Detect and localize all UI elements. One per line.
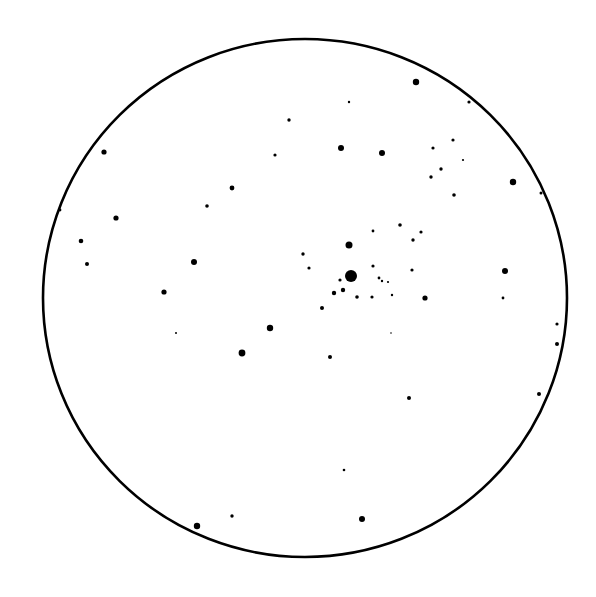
star-dot	[502, 297, 505, 300]
star-dot	[161, 289, 166, 294]
star-dot	[540, 192, 543, 195]
star-dot	[419, 230, 422, 233]
star-dot	[452, 193, 456, 197]
star-dot	[332, 291, 336, 295]
star-dot	[348, 101, 350, 103]
star-dot	[338, 145, 344, 151]
star-dot	[502, 268, 508, 274]
star-dot	[413, 79, 419, 85]
star-dot	[287, 118, 290, 121]
star-dot	[79, 239, 84, 244]
star-dot	[175, 332, 177, 334]
star-dot	[379, 150, 385, 156]
star-dot	[537, 392, 541, 396]
star-dot	[239, 350, 246, 357]
star-dot	[101, 149, 106, 154]
star-dot	[194, 523, 200, 529]
star-dot	[355, 295, 359, 299]
star-dot	[345, 270, 357, 282]
star-dot	[555, 322, 558, 325]
star-dot	[191, 259, 197, 265]
star-dot	[205, 204, 209, 208]
star-dot	[372, 230, 375, 233]
star-field-drawing	[0, 0, 596, 597]
star-dot	[411, 238, 414, 241]
star-dot	[328, 355, 332, 359]
star-dot	[230, 186, 235, 191]
star-dot	[398, 223, 402, 227]
star-dot	[407, 396, 411, 400]
star-dot	[378, 277, 381, 280]
star-dot	[410, 268, 413, 271]
star-dot	[371, 264, 374, 267]
star-dot	[113, 215, 118, 220]
star-dot	[390, 332, 392, 334]
star-dot	[387, 281, 389, 283]
star-dot	[267, 325, 273, 331]
star-dot	[429, 175, 432, 178]
star-dot	[451, 138, 454, 141]
star-dot	[338, 278, 341, 281]
star-dot	[467, 100, 470, 103]
star-dot	[370, 295, 373, 298]
star-dot	[85, 262, 89, 266]
star-dot	[431, 146, 434, 149]
background	[0, 0, 596, 597]
star-dot	[230, 514, 233, 517]
star-dot	[341, 288, 345, 292]
star-dot	[381, 280, 383, 282]
star-dot	[462, 159, 464, 161]
star-dot	[343, 469, 346, 472]
star-dot	[307, 266, 310, 269]
star-dot	[510, 179, 516, 185]
star-dot	[359, 516, 365, 522]
star-dot	[59, 209, 62, 212]
star-dot	[320, 306, 324, 310]
star-dot	[555, 342, 559, 346]
star-dot	[391, 294, 393, 296]
star-dot	[273, 153, 276, 156]
star-dot	[439, 167, 442, 170]
star-dot	[422, 295, 427, 300]
star-dot	[346, 242, 353, 249]
star-dot	[301, 252, 304, 255]
